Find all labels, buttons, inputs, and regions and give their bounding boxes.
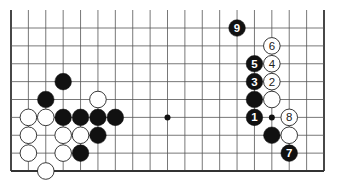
white-stone-icon <box>37 163 54 180</box>
black-stone-icon <box>72 109 89 126</box>
black-stone-icon <box>246 91 263 108</box>
white-stone-icon <box>72 127 89 144</box>
move-number: 1 <box>251 111 258 123</box>
white-stone-icon <box>37 109 54 126</box>
white-stone-icon <box>55 145 72 162</box>
black-stone-icon <box>264 127 281 144</box>
black-stone-icon <box>55 109 72 126</box>
black-stone-icon <box>90 127 107 144</box>
black-stone-9: 9 <box>229 20 246 37</box>
white-stone <box>20 109 37 126</box>
white-stone <box>20 145 37 162</box>
white-stone <box>90 91 107 108</box>
black-stone <box>72 145 89 162</box>
black-stone <box>55 73 72 90</box>
move-number: 8 <box>286 111 292 123</box>
white-stone-icon <box>20 145 37 162</box>
move-number: 3 <box>251 76 257 88</box>
white-stone <box>264 91 281 108</box>
white-stone <box>281 127 298 144</box>
black-stone-icon <box>55 73 72 90</box>
white-stone-icon <box>20 109 37 126</box>
move-number: 6 <box>269 40 275 52</box>
move-number: 4 <box>269 58 276 70</box>
move-number: 7 <box>286 147 292 159</box>
white-stone <box>55 127 72 144</box>
white-stone <box>37 109 54 126</box>
black-stone <box>55 109 72 126</box>
move-number: 2 <box>269 76 275 88</box>
white-stone <box>37 163 54 180</box>
white-stone-icon <box>55 127 72 144</box>
go-board: 953164287 <box>0 0 337 180</box>
black-stone-icon <box>107 109 124 126</box>
white-stone-2: 2 <box>264 73 281 90</box>
black-stone-3: 3 <box>246 73 263 90</box>
white-stone-4: 4 <box>264 55 281 72</box>
black-stone <box>72 109 89 126</box>
white-stone-icon <box>20 127 37 144</box>
black-stone-7: 7 <box>281 145 298 162</box>
black-stone <box>90 127 107 144</box>
black-stone-icon <box>37 91 54 108</box>
white-stone-6: 6 <box>264 38 281 55</box>
black-stone-icon <box>72 145 89 162</box>
move-number: 5 <box>251 58 258 70</box>
star-point-icon <box>269 114 275 120</box>
white-stone-icon <box>264 91 281 108</box>
black-stone <box>264 127 281 144</box>
move-number: 9 <box>234 22 240 34</box>
white-stone-icon <box>281 127 298 144</box>
white-stone <box>20 127 37 144</box>
black-stone-5: 5 <box>246 55 263 72</box>
white-stone <box>55 145 72 162</box>
black-stone-1: 1 <box>246 109 263 126</box>
white-stone <box>72 127 89 144</box>
black-stone <box>107 109 124 126</box>
black-stone <box>90 109 107 126</box>
black-stone <box>37 91 54 108</box>
star-point-icon <box>165 114 171 120</box>
black-stone-icon <box>90 109 107 126</box>
white-stone-8: 8 <box>281 109 298 126</box>
black-stone <box>246 91 263 108</box>
white-stone-icon <box>90 91 107 108</box>
